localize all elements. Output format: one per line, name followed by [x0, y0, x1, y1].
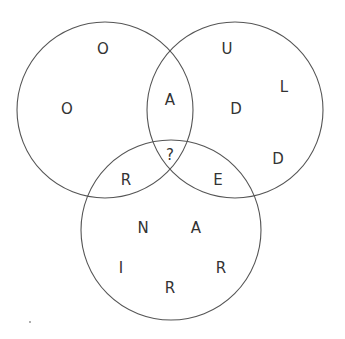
letter-bottom-5: R	[165, 279, 175, 297]
venn-diagram: O O A R ? U L D D E N A I R R	[0, 0, 345, 339]
letter-bottom-4: R	[216, 259, 226, 277]
letter-center-question: ?	[166, 146, 174, 164]
speck-mark	[29, 321, 31, 323]
letter-bottom-3: I	[119, 259, 123, 277]
letter-bottom-1: N	[137, 219, 148, 237]
letter-right-bottom-intersection: E	[213, 171, 222, 189]
letter-top-intersection: A	[165, 91, 176, 109]
letter-bottom-2: A	[191, 219, 202, 237]
letter-top-right-4: D	[272, 150, 284, 168]
letter-top-right-2: L	[280, 78, 289, 96]
letter-top-left-2: O	[61, 100, 73, 118]
letter-top-left-1: O	[97, 40, 109, 58]
letter-left-bottom-intersection: R	[121, 171, 131, 189]
letter-top-right-1: U	[222, 40, 233, 58]
letter-top-right-3: D	[230, 100, 242, 118]
